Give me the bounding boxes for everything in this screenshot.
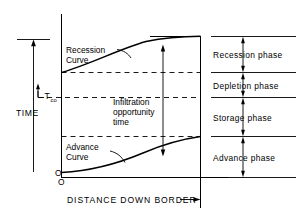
origin-sub-label: O — [58, 177, 65, 187]
phase-panel: Recession phase Depletion phase Storage … — [211, 37, 296, 178]
phase-label-depletion: Depletion phase — [213, 81, 279, 91]
phase-label-storage: Storage phase — [213, 113, 272, 123]
depletion-phase-arrowhead-bottom — [241, 91, 245, 97]
x-axis-label: DISTANCE DOWN BORDER — [67, 195, 197, 205]
advance-curve-group: Advance Curve — [62, 137, 201, 173]
irrigation-phase-diagram: TIME T co O O — [0, 0, 306, 220]
infiltration-arrowhead-top — [161, 45, 165, 52]
recession-curve-label-line1: Recession — [66, 45, 105, 55]
tco-arrowhead — [36, 84, 40, 90]
tco-bracket — [38, 91, 44, 98]
infiltration-opportunity-group: Infiltration opportunity time — [113, 45, 165, 157]
storage-phase-arrowhead-top — [241, 98, 245, 104]
time-axis-group: TIME — [16, 40, 50, 173]
time-axis-label: TIME — [16, 108, 39, 118]
infiltration-label-line1: Infiltration — [113, 97, 150, 107]
recession-phase-arrowhead-bottom — [241, 66, 245, 72]
recession-curve-label-line2: Curve — [66, 55, 89, 65]
diagram-canvas: TIME T co O O — [0, 0, 306, 220]
storage-phase-arrowhead-bottom — [241, 130, 245, 136]
advance-curve-label-line1: Advance — [66, 142, 99, 152]
phase-label-recession: Recession phase — [213, 50, 283, 60]
depletion-phase-arrowhead-top — [241, 73, 245, 79]
time-axis-arrowhead — [31, 40, 36, 47]
infiltration-arrowhead-bottom — [161, 150, 165, 157]
advance-curve-label-line2: Curve — [66, 152, 89, 162]
advance-phase-arrowhead-bottom — [241, 171, 245, 177]
phase-label-advance: Advance phase — [213, 153, 275, 163]
infiltration-label-line2: opportunity — [113, 107, 155, 117]
x-axis-label-group: DISTANCE DOWN BORDER — [67, 195, 201, 205]
infiltration-label-line3: time — [113, 117, 129, 127]
advance-phase-arrowhead-top — [241, 137, 245, 143]
recession-phase-arrowhead-top — [241, 37, 245, 43]
cutoff-time-group: T co — [36, 84, 57, 103]
recession-curve-group: Recession Curve — [62, 36, 201, 72]
origin-label-group: O O — [55, 168, 65, 187]
x-axis-label-arrowhead — [194, 197, 201, 202]
